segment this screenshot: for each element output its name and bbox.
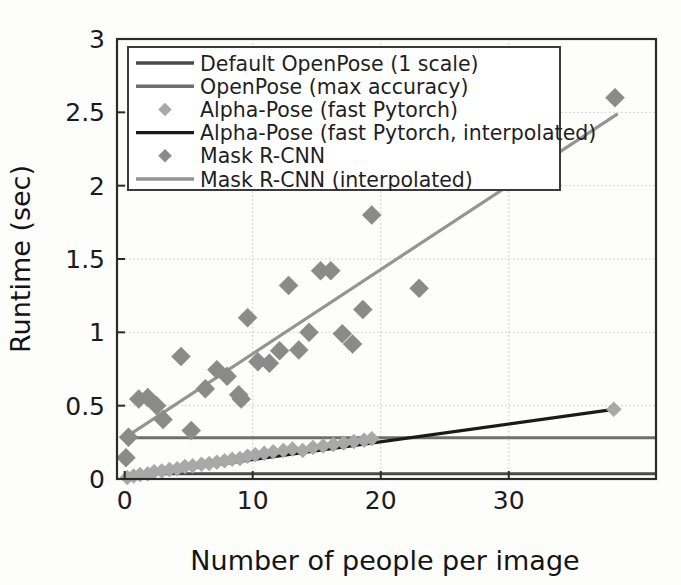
- legend-label: Default OpenPose (1 scale): [200, 52, 479, 76]
- x-tick-label: 20: [365, 486, 397, 515]
- y-tick-label: 3: [89, 25, 105, 54]
- x-tick-label: 0: [117, 486, 133, 515]
- legend-label: Mask R-CNN: [200, 144, 325, 168]
- y-tick-label: 1.5: [65, 245, 105, 274]
- y-tick-label: 0.5: [65, 392, 105, 421]
- chart-legend[interactable]: Default OpenPose (1 scale)OpenPose (max …: [128, 47, 596, 192]
- y-tick-label: 2.5: [65, 98, 105, 127]
- x-axis-title: Number of people per image: [190, 545, 579, 576]
- legend-item-alpha-pose-fast-pytorch[interactable]: Alpha-Pose (fast Pytorch): [159, 98, 459, 122]
- x-tick-label: 10: [237, 486, 269, 515]
- x-tick-label: 30: [493, 486, 525, 515]
- y-tick-label: 1: [89, 318, 105, 347]
- legend-label: OpenPose (max accuracy): [200, 75, 468, 99]
- legend-item-alpha-pose-fast-pytorch-interpolated[interactable]: Alpha-Pose (fast Pytorch, interpolated): [136, 121, 596, 145]
- chart-figure: 0102030 00.511.522.53 Number of people p…: [0, 0, 681, 585]
- legend-label: Alpha-Pose (fast Pytorch, interpolated): [200, 121, 596, 145]
- y-axis-title: Runtime (sec): [5, 165, 36, 353]
- runtime-scatter-chart: 0102030 00.511.522.53 Number of people p…: [0, 0, 681, 585]
- y-tick-label: 0: [89, 465, 105, 494]
- legend-label: Alpha-Pose (fast Pytorch): [200, 98, 458, 122]
- legend-label: Mask R-CNN (interpolated): [200, 168, 473, 192]
- y-tick-label: 2: [89, 172, 105, 201]
